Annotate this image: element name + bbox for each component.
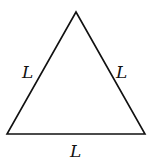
left-side-label: L [21, 62, 33, 82]
bottom-side-label: L [69, 141, 81, 161]
right-side-label: L [115, 62, 127, 82]
triangle-diagram: L L L [0, 0, 153, 166]
